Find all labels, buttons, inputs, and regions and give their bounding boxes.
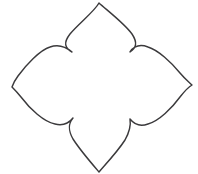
quatrefoil-figure [0,0,198,174]
drawing-canvas [0,0,198,174]
